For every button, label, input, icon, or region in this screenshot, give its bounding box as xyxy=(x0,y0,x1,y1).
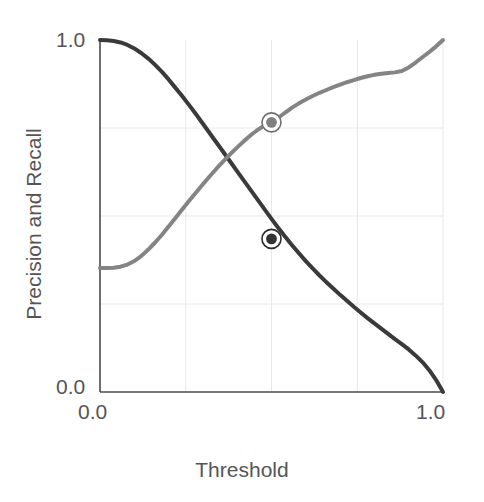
chart-canvas xyxy=(0,0,484,502)
x-axis-title: Threshold xyxy=(0,458,484,482)
y-axis-tick-label-bottom: 0.0 xyxy=(56,375,85,399)
x-axis-tick-label-left: 0.0 xyxy=(78,400,107,424)
marker-dot-precision-at-threshold xyxy=(266,233,277,244)
precision-recall-threshold-chart: 1.0 0.0 0.0 1.0 Precision and Recall Thr… xyxy=(0,0,484,502)
x-axis-tick-label-right: 1.0 xyxy=(416,400,445,424)
marker-dot-recall-at-threshold xyxy=(266,117,277,128)
y-axis-title: Precision and Recall xyxy=(22,104,46,344)
y-axis-tick-label-top: 1.0 xyxy=(56,28,85,52)
